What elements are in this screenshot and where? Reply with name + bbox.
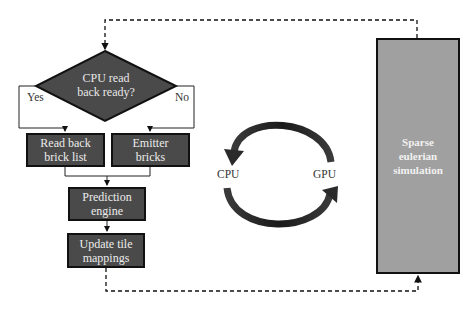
no-label: No bbox=[175, 91, 189, 103]
update-tile-mappings-label: Update tile mappings bbox=[80, 237, 133, 265]
read-back-brick-list-label: Read back brick list bbox=[40, 136, 90, 164]
merge-line bbox=[65, 167, 150, 185]
update-tile-mappings-box: Update tile mappings bbox=[67, 233, 145, 268]
sparse-eulerian-simulation-box: Sparse eulerian simulation bbox=[376, 38, 460, 274]
feedback-bottom-dashed-line bbox=[106, 268, 418, 291]
emitter-bricks-box: Emitter bricks bbox=[111, 133, 190, 167]
gpu-label: GPU bbox=[313, 168, 336, 180]
emitter-bricks-label: Emitter bricks bbox=[133, 136, 169, 164]
cpu-label: CPU bbox=[217, 168, 239, 180]
feedback-top-dashed-line bbox=[105, 20, 417, 49]
prediction-engine-box: Prediction engine bbox=[68, 187, 146, 221]
cycle-arrowhead-left bbox=[224, 149, 244, 166]
decision-label: CPU read back ready? bbox=[55, 71, 157, 99]
simulation-label: Sparse eulerian simulation bbox=[393, 135, 443, 177]
yes-label: Yes bbox=[27, 91, 44, 103]
flowchart-diagram: CPU read back ready? Yes No Read back br… bbox=[0, 0, 474, 310]
cycle-arc-top bbox=[234, 125, 331, 162]
cycle-arc-bottom bbox=[227, 188, 330, 224]
read-back-brick-list-box: Read back brick list bbox=[26, 133, 105, 167]
prediction-engine-label: Prediction engine bbox=[82, 190, 131, 218]
